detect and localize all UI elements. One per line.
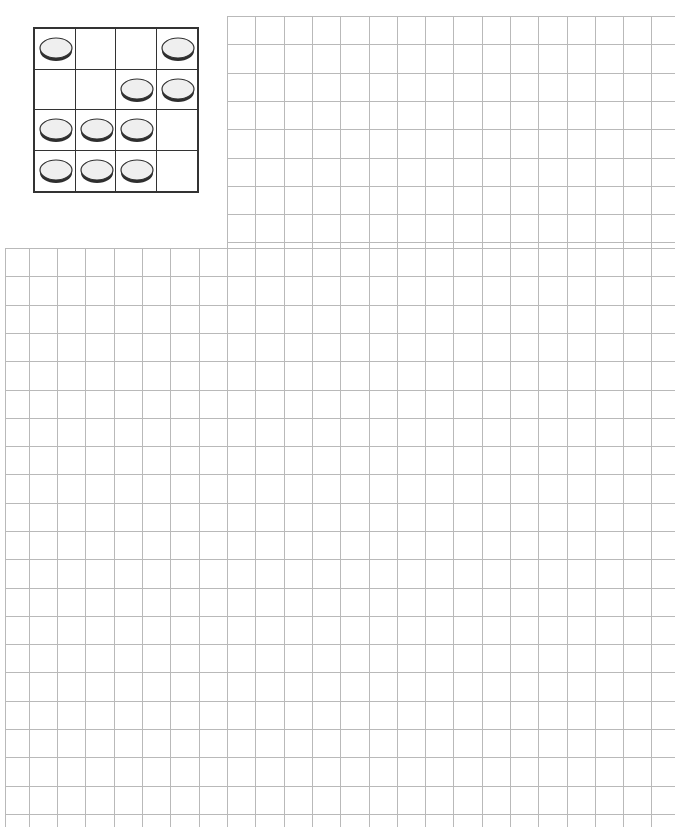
grid-line [227,73,675,74]
board-cell [157,110,198,151]
board-cell [76,29,117,70]
board-cell [116,151,157,192]
grid-line [5,418,675,419]
grid-line [453,16,454,827]
grid-line [227,186,675,187]
grid-line [57,248,58,827]
grid-line [5,305,675,306]
grid-line [340,16,341,827]
grid-line [5,361,675,362]
coin-disc-icon [161,78,195,103]
puzzle-board [33,27,199,193]
board-cell [76,110,117,151]
coin-disc-icon [80,118,114,143]
grid-line [29,248,30,827]
grid-line [5,248,675,249]
grid-line [425,16,426,827]
grid-line [227,101,675,102]
grid-line [5,672,675,673]
grid-line [5,390,675,391]
grid-line [227,214,675,215]
grid-line [170,248,171,827]
board-cell [157,29,198,70]
board-cell [35,110,76,151]
coin-disc-icon [120,78,154,103]
coin-disc-icon [39,159,73,184]
grid-line [284,16,285,827]
grid-line [5,248,6,827]
grid-line [5,701,675,702]
grid-line [567,16,568,827]
coin-disc-icon [39,118,73,143]
grid-line [538,16,539,827]
coin-disc-icon [161,37,195,62]
grid-line [5,276,675,277]
board-cell [35,151,76,192]
grid-line [623,16,624,827]
grid-line [5,644,675,645]
disc-puzzle [17,13,199,210]
grid-line [482,16,483,827]
grid-line [227,16,228,827]
grid-line [227,242,675,243]
board-cell [116,29,157,70]
grid-line [5,531,675,532]
grid-line [5,729,675,730]
coin-disc-icon [120,118,154,143]
grid-line [5,559,675,560]
grid-line [510,16,511,827]
board-cell [35,29,76,70]
grid-line [114,248,115,827]
grid-line [255,16,256,827]
grid-line [227,16,675,17]
grid-line [5,616,675,617]
grid-line [5,814,675,815]
grid-line [5,333,675,334]
grid-line [199,248,200,827]
grid-line [5,588,675,589]
grid-line [5,446,675,447]
board-cell [35,70,76,111]
board-cell [157,151,198,192]
board-cell [116,110,157,151]
grid-line [369,16,370,827]
grid-line [651,16,652,827]
grid-line [5,503,675,504]
grid-line [5,786,675,787]
board-cell [76,151,117,192]
grid-line [85,248,86,827]
grid-line [227,158,675,159]
coin-disc-icon [120,159,154,184]
grid-line [142,248,143,827]
coin-disc-icon [39,37,73,62]
grid-line [5,757,675,758]
board-cell [116,70,157,111]
grid-line [595,16,596,827]
grid-line [312,16,313,827]
board-cell [76,70,117,111]
grid-line [5,474,675,475]
board-cell [157,70,198,111]
grid-line [227,129,675,130]
coin-disc-icon [80,159,114,184]
grid-line [227,44,675,45]
grid-line [397,16,398,827]
